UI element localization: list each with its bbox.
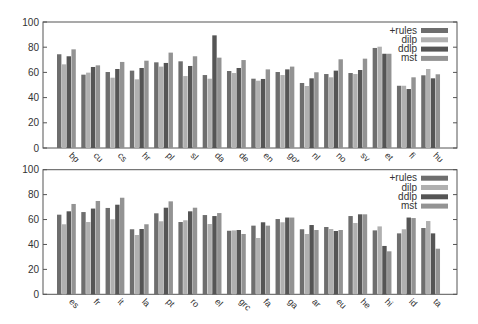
x-tick-label: cs [116, 150, 130, 162]
bar-ga-ddlp [285, 218, 289, 295]
bar-it-mst [120, 198, 124, 295]
legend: +rulesdilpddlpmst [389, 25, 448, 64]
plot-frame [43, 22, 457, 148]
bar-bg-dilp [62, 64, 66, 148]
bar-group-fr [81, 201, 100, 294]
bar-ta-mst [436, 249, 440, 295]
bar-cu-rules [81, 75, 85, 148]
bar-fi-dilp [402, 86, 406, 148]
bar-nl-dilp [305, 86, 309, 148]
bar-got-mst [290, 67, 294, 148]
bar-hu-mst [436, 74, 440, 148]
bar-hr-ddlp [139, 68, 143, 148]
bar-sl-mst [193, 56, 197, 148]
bar-cu-mst [96, 65, 100, 148]
bar-eu-ddlp [334, 231, 338, 294]
x-tick-label: cu [91, 150, 105, 162]
bar-id-ddlp [407, 218, 411, 295]
bar-ga-dilp [280, 222, 284, 294]
bar-group-got [276, 67, 295, 148]
bar-nl-rules [300, 83, 304, 148]
bar-pl-rules [154, 62, 158, 148]
y-tick-label: 100 [22, 164, 39, 175]
x-tick-label: sl [189, 150, 201, 162]
bar-el-dilp [207, 224, 211, 294]
bar-es-dilp [62, 224, 66, 294]
bar-ar-rules [300, 229, 304, 294]
bar-da-dilp [207, 79, 211, 148]
bar-hr-rules [130, 71, 134, 148]
bar-eu-mst [338, 230, 342, 294]
bar-group-bg [57, 49, 76, 148]
legend: +rulesdilpddlpmst [389, 172, 448, 211]
bar-cs-dilp [110, 78, 114, 148]
x-tick-label: he [359, 297, 373, 311]
bar-cu-dilp [86, 73, 90, 148]
bar-group-cs [106, 62, 125, 148]
y-tick-label: 60 [28, 67, 40, 78]
legend-swatch [421, 47, 448, 52]
bar-da-rules [203, 75, 207, 148]
x-tick-label: pt [164, 297, 177, 310]
legend-swatch [421, 56, 448, 61]
bar-ta-dilp [426, 221, 430, 294]
bar-eu-rules [324, 227, 328, 294]
bar-group-da [203, 35, 222, 148]
bar-grc-rules [227, 231, 231, 295]
bar-fr-mst [96, 201, 100, 294]
bar-group-no [324, 59, 343, 148]
bar-da-ddlp [212, 35, 216, 148]
top-bar-chart: 020406080100bgcucshrplsldadeengotnlnosve… [0, 0, 478, 162]
bar-ro-rules [178, 222, 182, 294]
bar-de-rules [227, 71, 231, 148]
bottom-bar-chart: 020406080100esfritlaptroelgrcfagaareuheh… [0, 162, 478, 324]
bar-sl-rules [178, 61, 182, 148]
bar-pl-dilp [159, 67, 163, 148]
bar-da-mst [217, 58, 221, 148]
bar-got-ddlp [285, 69, 289, 148]
bar-sv-dilp [353, 74, 357, 148]
bar-nl-ddlp [309, 78, 313, 148]
bar-got-dilp [280, 75, 284, 148]
bar-ta-rules [421, 228, 425, 294]
x-tick-label: eu [334, 297, 348, 311]
bar-fi-rules [397, 86, 401, 148]
x-tick-label: de [237, 150, 251, 162]
bar-en-dilp [256, 81, 260, 148]
bar-group-fa [251, 222, 270, 294]
bar-hu-ddlp [431, 78, 435, 148]
bar-hu-dilp [426, 69, 430, 148]
bar-ar-mst [314, 230, 318, 294]
x-tick-label: ro [189, 297, 202, 310]
bar-id-rules [397, 233, 401, 294]
bar-bg-mst [71, 49, 75, 148]
x-tick-label: en [261, 150, 275, 162]
bar-grc-ddlp [237, 230, 241, 294]
bar-group-id [397, 218, 416, 295]
legend-label: mst [401, 52, 417, 63]
x-tick-label: ar [310, 297, 323, 310]
x-tick-label: no [334, 150, 348, 162]
bar-pt-ddlp [164, 208, 168, 295]
bar-cs-mst [120, 62, 124, 148]
legend-swatch [421, 185, 448, 190]
bar-got-rules [276, 72, 280, 148]
x-tick-label: hu [431, 150, 445, 162]
bar-group-nl [300, 72, 319, 148]
bar-id-mst [411, 218, 415, 294]
x-tick-label: fi [407, 150, 417, 160]
bar-de-ddlp [237, 68, 241, 148]
y-tick-label: 80 [28, 189, 40, 200]
bar-group-de [227, 60, 246, 148]
legend-swatch [421, 176, 448, 181]
bar-la-rules [130, 229, 134, 294]
bar-sv-ddlp [358, 70, 362, 148]
bar-es-mst [71, 204, 75, 294]
bar-hi-rules [373, 230, 377, 294]
bar-hu-rules [421, 75, 425, 148]
y-tick-label: 0 [33, 289, 39, 300]
bar-ro-dilp [183, 220, 187, 294]
bar-en-mst [266, 69, 270, 148]
bar-he-ddlp [358, 214, 362, 294]
bar-eu-dilp [329, 229, 333, 294]
